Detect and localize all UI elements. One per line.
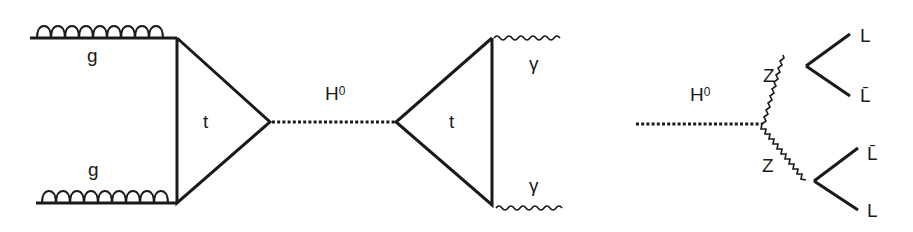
label-lepton-3: L̄ <box>867 143 878 164</box>
diagram-higgs-zz: H0 Z Z L L̄ L̄ L <box>636 25 878 221</box>
photon-line-top <box>494 36 560 40</box>
label-gluon-bottom: g <box>88 159 99 180</box>
gluon-coil-top <box>37 26 163 38</box>
lepton-line-2 <box>806 66 850 96</box>
label-lepton-1: L <box>860 25 871 46</box>
label-z-top: Z <box>763 65 775 86</box>
label-gluon-top: g <box>87 45 98 66</box>
label-lepton-2: L̄ <box>860 85 871 106</box>
top-loop-left <box>177 38 270 203</box>
label-top-right: t <box>449 111 455 132</box>
lepton-line-3 <box>814 148 858 181</box>
top-loop-right <box>396 38 492 205</box>
label-z-bottom: Z <box>762 155 774 176</box>
label-top-left: t <box>203 111 209 132</box>
feynman-diagrams: g g t H0 t γ γ H0 Z Z L L̄ L̄ L <box>0 0 913 232</box>
label-higgs-left: H0 <box>325 83 346 104</box>
label-higgs-right: H0 <box>690 84 711 105</box>
photon-line-bottom <box>496 206 562 210</box>
diagram-gluon-fusion: g g t H0 t γ γ <box>30 26 562 210</box>
gluon-coil-bottom <box>42 191 168 203</box>
label-photon-bottom: γ <box>529 175 539 196</box>
label-lepton-4: L <box>867 200 878 221</box>
label-photon-top: γ <box>529 53 539 74</box>
lepton-line-1 <box>806 34 850 66</box>
lepton-line-4 <box>814 181 858 210</box>
